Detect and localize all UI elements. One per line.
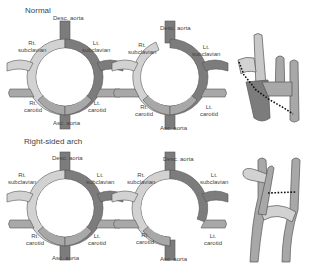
label-rt: Rt.	[136, 232, 154, 239]
label-carotid: carotid	[88, 107, 106, 114]
label-asc-aorta: Asc. aorta	[160, 256, 187, 263]
label-asc-aorta: Asc. aorta	[52, 255, 79, 262]
label-lt-subclavian: Lt. subclavian	[86, 172, 114, 186]
label-asc-aorta: Asc. aorta	[160, 125, 187, 132]
label-carotid: carotid	[135, 111, 153, 118]
label-lt-subclavian: Lt. subclavian	[82, 40, 110, 54]
label-subclavian: subclavian	[18, 47, 46, 54]
label-subclavian: subclavian	[86, 179, 114, 186]
label-desc-aorta: Desc. aorta	[52, 155, 83, 162]
label-lt-carotid: Lt. carotid	[200, 104, 218, 118]
label-carotid: carotid	[24, 107, 42, 114]
label-lt: Lt.	[192, 44, 220, 51]
label-rt: Rt.	[8, 172, 36, 179]
label-lt: Lt.	[88, 233, 106, 240]
label-subclavian: subclavian	[200, 179, 228, 186]
label-rt: Rt.	[18, 40, 46, 47]
label-rt: Rt.	[127, 172, 155, 179]
label-carotid: carotid	[204, 240, 222, 247]
label-rt-carotid: Rt. carotid	[135, 104, 153, 118]
label-lt: Lt.	[200, 104, 218, 111]
label-lt-carotid: Lt. carotid	[88, 100, 106, 114]
label-desc-aorta: Desc. aorta	[53, 15, 84, 22]
normal-3d-sketch	[238, 34, 299, 123]
label-carotid: carotid	[136, 239, 154, 246]
label-rt-carotid: Rt. carotid	[136, 232, 154, 246]
right-arch-3d-sketch	[243, 158, 300, 262]
label-desc-aorta: Desc. aorta	[160, 25, 191, 32]
label-carotid: carotid	[200, 111, 218, 118]
label-lt: Lt.	[204, 233, 222, 240]
label-rt: Rt.	[24, 100, 42, 107]
label-lt-carotid: Lt. carotid	[204, 233, 222, 247]
label-subclavian: subclavian	[127, 179, 155, 186]
label-lt-subclavian: Lt. subclavian	[200, 172, 228, 186]
label-asc-aorta: Asc. aorta	[53, 120, 80, 127]
label-rt-carotid: Rt. carotid	[26, 233, 44, 247]
label-subclavian: subclavian	[128, 49, 156, 56]
label-lt: Lt.	[86, 172, 114, 179]
label-rt: Rt.	[135, 104, 153, 111]
label-desc-aorta: Desc. aorta	[163, 156, 194, 163]
label-rt-subclavian: Rt. subclavian	[128, 42, 156, 56]
label-rt-carotid: Rt. carotid	[24, 100, 42, 114]
label-carotid: carotid	[26, 240, 44, 247]
label-lt: Lt.	[200, 172, 228, 179]
label-lt-carotid: Lt. carotid	[88, 233, 106, 247]
label-rt-subclavian: Rt. subclavian	[18, 40, 46, 54]
label-rt: Rt.	[26, 233, 44, 240]
label-carotid: carotid	[88, 240, 106, 247]
label-lt: Lt.	[82, 40, 110, 47]
label-lt-subclavian: Lt. subclavian	[192, 44, 220, 58]
label-rt-subclavian: Rt. subclavian	[8, 172, 36, 186]
label-rt: Rt.	[128, 42, 156, 49]
label-subclavian: subclavian	[192, 51, 220, 58]
label-subclavian: subclavian	[82, 47, 110, 54]
label-subclavian: subclavian	[8, 179, 36, 186]
label-rt-subclavian: Rt. subclavian	[127, 172, 155, 186]
label-lt: Lt.	[88, 100, 106, 107]
